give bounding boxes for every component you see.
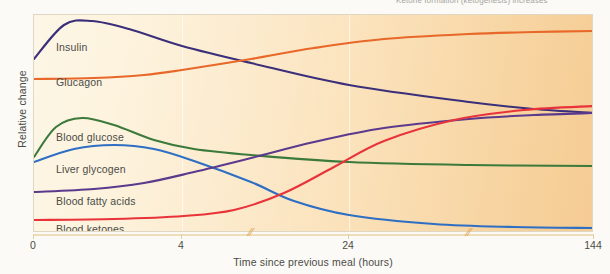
top-caption: Ketone formation (ketogenesis) increases (396, 0, 610, 8)
series-label-glucagon: Glucagon (56, 76, 102, 88)
x-axis-line (33, 234, 593, 236)
series-line-glucagon (34, 31, 593, 79)
series-label-blood-fatty-acids: Blood fatty acids (56, 195, 136, 207)
series-label-insulin: Insulin (56, 41, 87, 53)
y-axis-title: Relative change (16, 39, 28, 179)
series-label-blood-ketones: Blood ketones (56, 223, 125, 232)
x-axis-title: Time since previous meal (hours) (33, 256, 593, 268)
series-line-insulin (34, 20, 593, 113)
series-label-blood-glucose: Blood glucose (56, 131, 124, 143)
chart-figure: Ketone formation (ketogenesis) increases… (0, 0, 610, 274)
plot-area: InsulinGlucagonBlood glucoseLiver glycog… (33, 14, 593, 232)
x-tick-label: 0 (30, 239, 36, 251)
x-tick-label: 4 (178, 239, 184, 251)
series-line-blood-fatty-acids (34, 113, 593, 192)
series-label-liver-glycogen: Liver glycogen (56, 163, 126, 175)
x-tick-label: 24 (342, 239, 354, 251)
x-tick-label: 144 (584, 239, 602, 251)
